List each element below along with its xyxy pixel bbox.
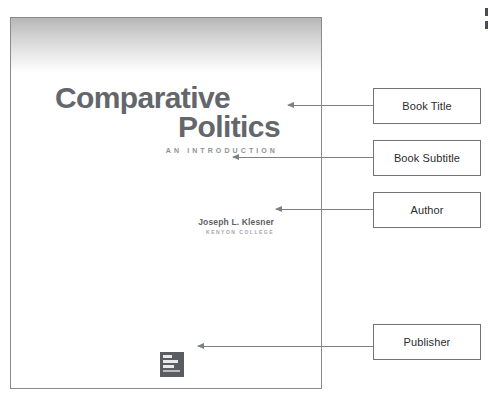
annotation-label-book-subtitle: Book Subtitle (394, 152, 460, 164)
book-title-line-2: Politics (29, 113, 281, 142)
annotation-label-publisher: Publisher (404, 336, 451, 348)
annotation-label-book-title: Book Title (402, 100, 451, 112)
arrow-to-book-title (288, 105, 373, 106)
logo-bar-4 (163, 370, 180, 372)
logo-bar-1 (163, 355, 172, 358)
logo-bar-2 (163, 360, 178, 363)
annotation-box-author: Author (373, 192, 481, 228)
mcgraw-hill-logo (160, 352, 184, 377)
diagram-canvas: Comparative Politics AN INTRODUCTION Jos… (0, 0, 488, 398)
cover-content: Comparative Politics AN INTRODUCTION Jos… (11, 18, 321, 388)
arrow-to-book-subtitle (233, 157, 373, 158)
annotation-box-book-title: Book Title (373, 88, 481, 124)
book-subtitle-text: AN INTRODUCTION (29, 147, 281, 154)
annotation-box-book-subtitle: Book Subtitle (373, 140, 481, 176)
arrow-to-publisher (198, 346, 373, 347)
book-author-block: Joseph L. Klesner KENYON COLLEGE (29, 217, 274, 235)
annotation-label-author: Author (410, 204, 443, 216)
book-title-block: Comparative Politics AN INTRODUCTION (29, 84, 281, 154)
book-cover-image: Comparative Politics AN INTRODUCTION Jos… (10, 17, 322, 389)
author-name-text: Joseph L. Klesner (29, 217, 274, 227)
arrow-to-author (276, 209, 373, 210)
annotation-box-publisher: Publisher (373, 324, 481, 360)
logo-bar-3 (163, 365, 174, 368)
author-affiliation-text: KENYON COLLEGE (29, 229, 274, 235)
book-title-line-1: Comparative (29, 84, 281, 113)
